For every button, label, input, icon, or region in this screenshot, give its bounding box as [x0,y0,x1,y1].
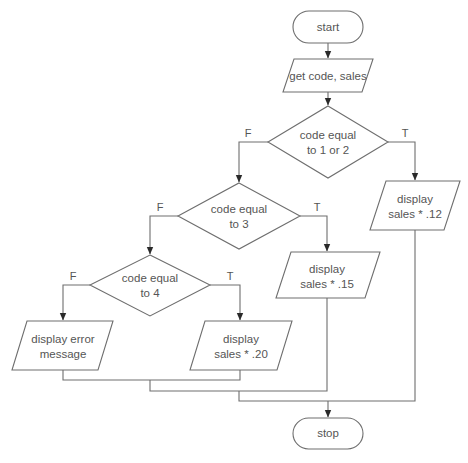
arrow-head-icon [412,173,418,181]
branch-label-true: T [314,201,321,213]
edge-decision3-true [210,285,240,320]
parallelogram-shape [276,252,380,298]
node-label-line2: sales * .20 [214,348,268,360]
node-decision3: code equal to 4 [90,255,210,316]
node-decision2: code equal to 3 [178,183,300,249]
edge-decision1-true [388,142,415,180]
diamond-shape [178,183,300,249]
arrow-head-icon [324,244,330,252]
node-label-line2: to 3 [229,218,248,230]
node-display-error: display error message [12,321,113,370]
branch-label-false: F [157,201,164,213]
node-label-line1: display [309,263,345,275]
node-label: start [317,21,340,33]
node-label-line2: sales * .15 [300,278,354,290]
merge-err-20 [63,370,240,380]
arrow-head-icon [236,175,242,183]
node-start: start [293,11,363,43]
edge-decision2-true [300,216,327,251]
edge-decision2-false [150,216,178,254]
node-label-line2: to 4 [140,287,160,299]
node-label: stop [317,427,339,439]
parallelogram-shape [12,321,113,370]
diamond-shape [268,106,388,178]
node-label-line2: to 1 or 2 [307,144,349,156]
arrow-head-icon [325,410,331,418]
node-label-line1: display error [31,333,94,345]
arrow-head-icon [325,51,331,59]
parallelogram-shape [370,181,460,230]
parallelogram-shape [190,321,292,370]
node-label-line1: display [223,333,259,345]
node-label-line2: sales * .12 [388,208,442,220]
node-label-line1: display [397,193,433,205]
arrow-head-icon [237,313,243,321]
edge-decision3-false [63,285,90,320]
branch-label-true: T [227,270,234,282]
diamond-shape [90,255,210,316]
node-label: get code, sales [289,70,367,82]
edge-decision1-false [239,142,268,182]
node-label-line1: code equal [300,129,356,141]
node-decision1: code equal to 1 or 2 [268,106,388,178]
branch-label-false: F [70,270,77,282]
flowchart: F T F T F T start get code, sales code e… [0,0,468,463]
node-display-12: display sales * .12 [370,181,460,230]
node-input: get code, sales [283,59,373,92]
node-stop: stop [293,418,363,449]
branch-label-true: T [402,127,409,139]
node-label-line2: message [40,348,87,360]
branch-label-false: F [245,127,252,139]
node-label-line1: code equal [211,203,267,215]
node-display-20: display sales * .20 [190,321,292,370]
node-display-15: display sales * .15 [276,252,380,298]
arrow-head-icon [60,313,66,321]
arrow-head-icon [325,98,331,106]
arrow-head-icon [147,247,153,255]
node-label-line1: code equal [122,272,178,284]
